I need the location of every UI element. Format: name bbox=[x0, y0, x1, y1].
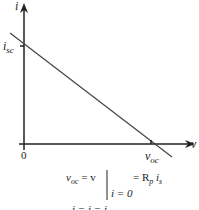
y-axis-label: i bbox=[15, 0, 18, 12]
x-axis-label: v bbox=[191, 138, 196, 150]
equation-voc: voc = v bbox=[66, 172, 96, 186]
source-line bbox=[10, 33, 172, 157]
equation-rhs: = Rp is bbox=[133, 172, 162, 186]
iv-plot bbox=[0, 0, 199, 210]
origin-label: 0 bbox=[21, 150, 27, 161]
isc-label: isc bbox=[3, 40, 14, 55]
voc-label: voc bbox=[145, 150, 159, 165]
equation-isc-partial: i = i = i bbox=[72, 204, 107, 210]
equation-condition: i = 0 bbox=[111, 188, 132, 199]
